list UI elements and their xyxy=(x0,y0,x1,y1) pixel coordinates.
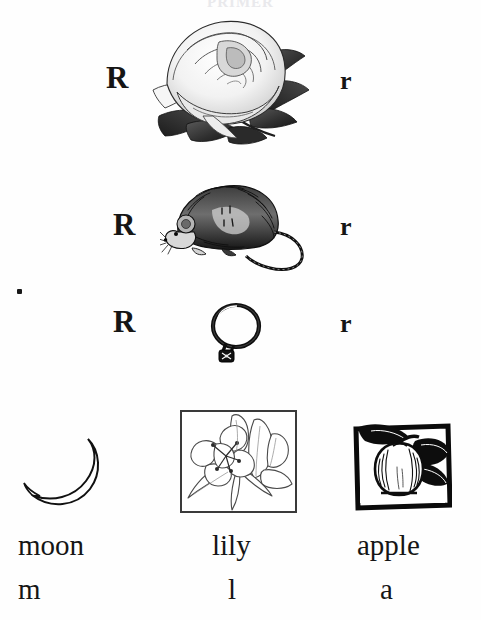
lowercase-letter-rose-row: r xyxy=(340,68,352,94)
letter-label-apple: a xyxy=(380,575,393,604)
lowercase-letter-rat-row: r xyxy=(340,214,352,240)
letter-label-lily: l xyxy=(228,575,236,604)
scan-speck-artifact xyxy=(17,289,22,294)
primer-page: PRIMER R xyxy=(0,0,481,620)
crescent-moon-illustration xyxy=(22,435,118,515)
capital-letter-rose-row: R xyxy=(106,62,128,93)
letter-label-moon: m xyxy=(18,575,41,604)
ring-illustration xyxy=(204,300,268,364)
lowercase-letter-ring-row: r xyxy=(340,311,352,337)
word-label-moon: moon xyxy=(18,531,84,560)
word-label-apple: apple xyxy=(357,531,420,560)
capital-letter-ring-row: R xyxy=(113,306,135,337)
apple-illustration xyxy=(353,423,452,511)
rose-illustration xyxy=(143,12,311,148)
rat-illustration xyxy=(160,176,310,274)
lily-illustration xyxy=(180,410,297,513)
page-header-ghost: PRIMER xyxy=(0,0,481,11)
word-label-lily: lily xyxy=(212,531,251,560)
capital-letter-rat-row: R xyxy=(113,209,135,240)
